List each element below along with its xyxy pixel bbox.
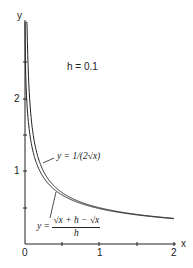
- curve2-fraction: √x + h − √x h: [52, 216, 100, 238]
- h-annotation: h = 0.1: [67, 62, 98, 72]
- tick-label-y2: 2: [14, 94, 20, 104]
- tick-label-y1: 1: [14, 166, 20, 176]
- curve1-leader-line: [43, 158, 54, 163]
- x-axis-label: x: [181, 239, 186, 249]
- curve1-label: y = 1/(2√x): [57, 152, 100, 162]
- tick-label-x1: 1: [97, 248, 103, 258]
- tick-label-x2: 2: [171, 248, 177, 258]
- curve-derivative: [26, 22, 174, 218]
- y-axis-label: y: [17, 11, 22, 21]
- curve2-label-lhs: y =: [37, 221, 50, 231]
- curve2-numerator: √x + h − √x: [52, 216, 100, 228]
- curve2-label: y = √x + h − √x h: [37, 216, 100, 238]
- curve2-denominator: h: [52, 228, 100, 239]
- tick-label-x0: 0: [22, 248, 28, 258]
- curve-difference-quotient: [25, 22, 174, 219]
